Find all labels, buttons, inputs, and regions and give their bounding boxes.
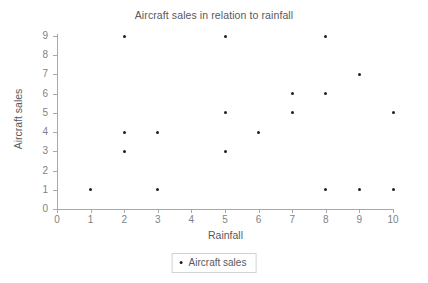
x-tick-label: 3 bbox=[145, 214, 171, 225]
x-tick-mark bbox=[191, 209, 192, 213]
data-point bbox=[324, 35, 327, 38]
x-axis-title: Rainfall bbox=[57, 229, 394, 241]
data-point bbox=[291, 92, 294, 95]
x-tick-mark bbox=[292, 209, 293, 213]
x-tick-mark bbox=[359, 209, 360, 213]
y-axis-title: Aircraft sales bbox=[12, 69, 24, 169]
x-tick-label: 2 bbox=[111, 214, 137, 225]
x-tick-mark bbox=[57, 209, 58, 213]
x-tick-mark bbox=[91, 209, 92, 213]
x-tick-label: 7 bbox=[279, 214, 305, 225]
x-tick-mark bbox=[225, 209, 226, 213]
y-tick-label: 1 bbox=[32, 183, 48, 197]
legend-label: Aircraft sales bbox=[189, 257, 247, 268]
y-tick-label: 4 bbox=[32, 125, 48, 139]
x-tick-mark bbox=[124, 209, 125, 213]
y-tick-label: 9 bbox=[32, 29, 48, 43]
legend-marker-icon bbox=[180, 261, 183, 264]
y-tick-label: 5 bbox=[32, 106, 48, 120]
data-point bbox=[392, 188, 395, 191]
x-tick-label: 8 bbox=[313, 214, 339, 225]
x-tick-label: 9 bbox=[346, 214, 372, 225]
x-tick-mark bbox=[259, 209, 260, 213]
data-point bbox=[123, 131, 126, 134]
data-point bbox=[156, 131, 159, 134]
x-tick-label: 10 bbox=[380, 214, 406, 225]
scatter-chart: Aircraft sales in relation to rainfall A… bbox=[0, 0, 428, 283]
data-point bbox=[123, 35, 126, 38]
y-tick-label: 7 bbox=[32, 67, 48, 81]
chart-legend: Aircraft sales bbox=[172, 253, 257, 273]
x-tick-mark bbox=[326, 209, 327, 213]
x-tick-mark bbox=[158, 209, 159, 213]
x-tick-label: 6 bbox=[246, 214, 272, 225]
x-tick-mark bbox=[393, 209, 394, 213]
data-point bbox=[224, 150, 227, 153]
data-point bbox=[257, 131, 260, 134]
plot-area bbox=[57, 36, 393, 209]
x-tick-label: 4 bbox=[178, 214, 204, 225]
data-point bbox=[224, 35, 227, 38]
data-point bbox=[358, 73, 361, 76]
data-point bbox=[123, 150, 126, 153]
x-tick-label: 1 bbox=[78, 214, 104, 225]
x-tick-label: 5 bbox=[212, 214, 238, 225]
y-tick-label: 2 bbox=[32, 164, 48, 178]
chart-title: Aircraft sales in relation to rainfall bbox=[0, 9, 428, 21]
y-tick-label: 8 bbox=[32, 48, 48, 62]
y-tick-label: 6 bbox=[32, 87, 48, 101]
x-tick-label: 0 bbox=[44, 214, 70, 225]
y-tick-label: 3 bbox=[32, 144, 48, 158]
